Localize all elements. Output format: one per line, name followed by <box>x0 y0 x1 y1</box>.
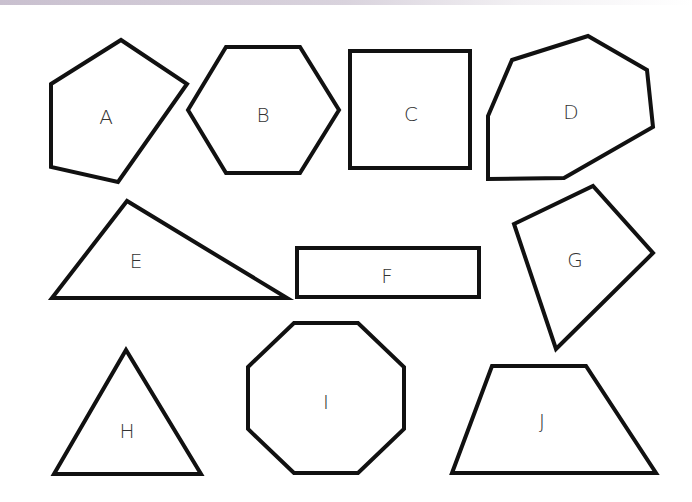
shape-b-hexagon: B <box>188 47 339 173</box>
shape-j-trapezoid: J <box>452 366 656 473</box>
shape-label: F <box>381 264 393 288</box>
shape-label: J <box>539 409 545 433</box>
shape-i-octagon: I <box>248 323 404 473</box>
trapezoid-outline <box>452 366 656 473</box>
shape-label: D <box>563 100 578 124</box>
shape-label: C <box>404 102 418 126</box>
shape-e-triangle: E <box>52 201 287 298</box>
shape-label: I <box>323 390 329 414</box>
shape-g-quadrilateral: G <box>514 186 653 349</box>
shape-h-triangle: H <box>54 350 201 474</box>
pentagon-outline <box>51 40 187 182</box>
triangle-outline <box>54 350 201 474</box>
shape-label: G <box>567 248 583 272</box>
shape-c-square: C <box>350 51 470 168</box>
shape-label: H <box>119 419 134 443</box>
triangle-outline <box>52 201 287 298</box>
shapes-diagram: ABCDEFGHIJ <box>0 0 692 502</box>
shape-label: E <box>130 249 143 273</box>
shape-f-rectangle: F <box>297 248 479 297</box>
shape-a-pentagon: A <box>51 40 187 182</box>
shape-label: A <box>99 105 113 129</box>
quadrilateral-outline <box>514 186 653 349</box>
shape-d-heptagon: D <box>488 36 653 179</box>
shape-label: B <box>256 103 269 127</box>
